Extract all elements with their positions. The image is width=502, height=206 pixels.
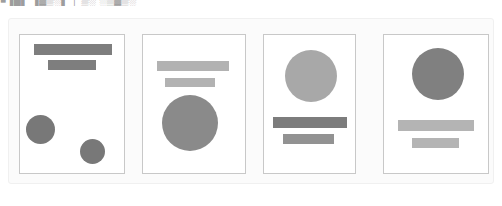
card-1-accent-circle-left (26, 115, 55, 144)
card-3-headline-bar (273, 117, 347, 128)
card-3-subhead-bar (283, 134, 334, 144)
card-2-subhead-bar (165, 78, 215, 87)
card-4-headline-bar (398, 120, 474, 131)
layout-variant-gallery (8, 18, 494, 184)
preview-card-3[interactable] (263, 34, 356, 174)
card-3-hero-circle (285, 50, 337, 102)
card-4-hero-circle (412, 48, 464, 100)
card-1-subhead-bar (48, 60, 96, 70)
card-1-accent-circle-right (80, 139, 105, 164)
card-1-headline-bar (34, 44, 112, 55)
top-caption: ■▐█▌ ▐▓▒░▌ │ ▒░ ░▒▓▒░ (0, 0, 260, 6)
preview-card-2[interactable] (142, 34, 246, 174)
preview-card-1[interactable] (19, 34, 125, 174)
card-2-hero-circle (162, 95, 218, 151)
card-2-headline-bar (157, 61, 229, 71)
card-4-subhead-bar (412, 138, 459, 148)
preview-card-4[interactable] (383, 34, 489, 174)
